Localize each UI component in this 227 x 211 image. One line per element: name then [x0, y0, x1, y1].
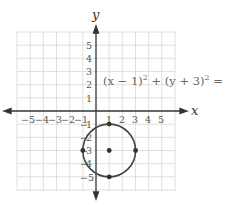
bottom-point: [107, 175, 112, 180]
right-point: [133, 148, 138, 153]
x-tick: 5: [158, 114, 164, 125]
center-point: [107, 148, 112, 153]
y-tick-minus: −: [80, 119, 88, 130]
x-axis-right-arrow-icon: [180, 109, 187, 114]
x-tick: −3: [48, 114, 62, 125]
left-point: [80, 148, 85, 153]
y-axis-up-arrow-icon: [94, 26, 99, 33]
y-axis-down-arrow-icon: [94, 192, 99, 199]
top-point: [107, 122, 112, 127]
coordinate-plane: y x −5 −4 −3 −2 −1 1 2 3 4 5 5 4 3 2 1 1…: [0, 0, 227, 211]
y-tick: 4: [86, 53, 92, 64]
equation-label: (x − 1)2 + (y + 3)2 = 4: [103, 73, 227, 88]
x-tick: −2: [61, 114, 75, 125]
y-tick: 1: [86, 93, 92, 104]
y-tick: 5: [86, 40, 92, 51]
x-tick: 3: [132, 114, 138, 125]
x-tick: 2: [119, 114, 125, 125]
y-axis-label: y: [91, 7, 100, 22]
y-tick: −5: [80, 172, 94, 183]
x-tick-labels: −5 −4 −3 −2 −1 1 2 3 4 5: [21, 114, 164, 125]
y-tick: 3: [86, 66, 92, 77]
x-tick: 4: [145, 114, 151, 125]
x-axis-left-arrow-icon: [4, 109, 11, 114]
x-tick: −4: [35, 114, 49, 125]
x-axis-label: x: [191, 103, 199, 118]
x-tick: −5: [21, 114, 35, 125]
y-tick: 2: [86, 79, 92, 90]
